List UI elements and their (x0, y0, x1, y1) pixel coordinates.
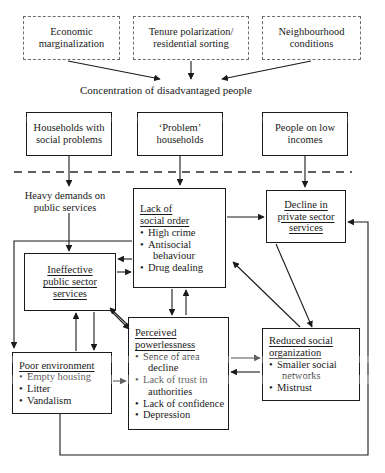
bullet-item: Smaller social (269, 359, 359, 371)
outcome-heading-line: Ineffective (47, 264, 92, 276)
group-line: ‘Problem’ (159, 122, 202, 134)
outcome-heading-line: powerlessness (135, 339, 228, 351)
bullet-item-continued: decline (135, 362, 228, 374)
outcome-bullet-list: Empty housing Litter Vandalism (19, 371, 111, 406)
wire-econ-to-concentration (68, 61, 160, 79)
group-line: households (156, 134, 203, 146)
bullet-item: Vandalism (19, 395, 111, 407)
cause-box-neighbourhood-conditions[interactable]: Neighbourhood conditions (262, 16, 361, 60)
cause-box-economic-marginalization[interactable]: Economic marginalization (23, 16, 120, 60)
heavy-demands-line: Heavy demands on (10, 190, 120, 202)
outcome-heading-line: services (53, 288, 87, 300)
outcome-box-poor-environment[interactable]: Poor environment Empty housing Litter Va… (12, 352, 112, 414)
outcome-bullet-list: High crime Antisocial behaviour Drug dea… (140, 227, 225, 274)
bullet-item: Lack of trust in (135, 374, 228, 386)
outcome-heading-line: organization (269, 347, 359, 359)
cause-line: marginalization (39, 38, 105, 50)
bullet-item-continued: networks (269, 370, 359, 382)
wire-neigh-to-concentration (222, 61, 311, 79)
heavy-demands-line: public services (10, 202, 120, 214)
bullet-item: High crime (140, 227, 225, 239)
group-box-problem-households[interactable]: ‘Problem’ households (137, 112, 223, 156)
cause-box-tenure-polarization[interactable]: Tenure polarization/ residential sorting (133, 16, 249, 60)
bullet-item: Antisocial (140, 239, 225, 251)
outcome-box-perceived-powerlessness[interactable]: Perceived powerlessness Sence of area de… (128, 317, 229, 430)
bullet-item: Litter (19, 383, 111, 395)
cause-line: residential sorting (153, 38, 229, 50)
label-heavy-demands-on-public-services: Heavy demands on public services (10, 190, 120, 214)
cause-line: Economic (50, 26, 93, 38)
outcome-heading-line: Decline in (284, 199, 327, 211)
bullet-item: Empty housing (19, 371, 111, 383)
bullet-item: Mistrust (269, 382, 359, 394)
outcome-bullet-list: Sence of area decline Lack of trust in a… (135, 351, 228, 422)
outcome-heading-line: Perceived (135, 327, 228, 339)
outcome-box-decline-in-private-sector-services[interactable]: Decline in private sector services (266, 190, 346, 243)
diagram-canvas: Economic marginalization Tenure polariza… (0, 0, 385, 473)
cause-line: Neighbourhood (279, 26, 345, 38)
group-line: social problems (36, 134, 102, 146)
outcome-heading-line: services (289, 222, 323, 234)
wire-reduced-to-lackorder (233, 262, 300, 327)
group-box-people-on-low-incomes[interactable]: People on low incomes (262, 112, 348, 156)
bullet-item: Lack of confidence (135, 398, 228, 410)
bullet-item: Sence of area (135, 351, 228, 363)
group-line: incomes (288, 134, 323, 146)
outcome-heading-line: Lack of (140, 203, 225, 215)
cause-line: Tenure polarization/ (149, 26, 234, 38)
outcome-bullet-list: Smaller social networks Mistrust (269, 359, 359, 394)
bullet-item-continued: behaviour (140, 250, 225, 262)
group-line: People on low (275, 122, 335, 134)
outcome-heading-line: private sector (278, 211, 335, 223)
wire-ineffective-to-perceived (110, 310, 129, 329)
bullet-item: Drug dealing (140, 262, 225, 274)
outcome-heading-line: Reduced social (269, 335, 359, 347)
outcome-box-reduced-social-organization[interactable]: Reduced social organization Smaller soci… (262, 328, 360, 401)
group-box-households-with-social-problems[interactable]: Households with social problems (26, 112, 112, 156)
outcome-box-ineffective-public-sector-services[interactable]: Ineffective public sector services (24, 253, 116, 311)
outcome-heading-line: Poor environment (19, 360, 111, 372)
group-line: Households with (34, 122, 105, 134)
outcome-heading-line: public sector (43, 276, 97, 288)
outcome-heading-line: social order (140, 215, 225, 227)
bullet-item: Depression (135, 409, 228, 421)
concentration-caption: Concentration of disadvantaged people (36, 84, 296, 97)
outcome-box-lack-of-social-order[interactable]: Lack of social order High crime Antisoci… (133, 188, 226, 288)
cause-line: conditions (290, 38, 334, 50)
bullet-item-continued: authorities (135, 386, 228, 398)
wire-decline-to-reduced (276, 244, 312, 327)
